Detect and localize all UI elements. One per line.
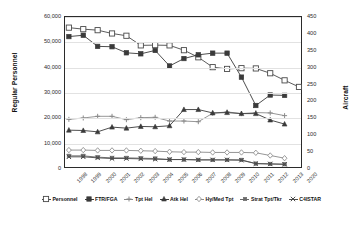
y-tick-label-left: 60,000 [31, 13, 61, 19]
x-tick-label: 2008 [219, 171, 232, 184]
y-tick-label-right: 450 [307, 13, 331, 19]
legend-label: Hy/Med Tpt [205, 196, 233, 202]
legend-symbol-icon [289, 195, 297, 203]
legend-label: Atk Hel [170, 196, 188, 202]
gridline [65, 93, 301, 94]
y-tick-label-left: 10,000 [31, 140, 61, 146]
legend-label: C4ISTAR [299, 196, 321, 202]
legend-marker [240, 199, 249, 200]
y-axis-title-right: Aircraft [339, 62, 351, 132]
y-tick-label-right: 350 [307, 47, 331, 53]
legend-marker [195, 199, 204, 200]
x-tick-label: 2010 [248, 171, 261, 184]
x-tick-label: 2007 [205, 171, 218, 184]
legend-symbol-icon [195, 195, 203, 203]
gridline [65, 68, 301, 69]
legend-marker [289, 199, 298, 200]
legend-marker [42, 199, 51, 200]
gridline [65, 42, 301, 43]
x-tick-label: 2011 [262, 171, 275, 184]
y-tick-label-left: 40,000 [31, 64, 61, 70]
y-tick-label-right: 50 [307, 148, 331, 154]
x-tick-label: 2012 [277, 171, 290, 184]
x-tick-label: 2009 [234, 171, 247, 184]
legend-item-c4istar[interactable]: C4ISTAR [289, 196, 321, 202]
legend-label: Tpt Hel [135, 196, 153, 202]
legend-label: Strat Tpt/Tkr [251, 196, 282, 202]
legend-label: Personnel [52, 196, 77, 202]
chart-legend: PersonnelFTR/FGATpt HelAtk HelHy/Med Tpt… [0, 196, 363, 202]
legend-item-ftr-fga[interactable]: FTR/FGA [85, 196, 118, 202]
gridline [65, 118, 301, 119]
gridline [65, 144, 301, 145]
y-tick-label-right: 0 [307, 165, 331, 171]
x-tick-label: 2020 [306, 171, 319, 184]
x-tick-label: 2004 [162, 171, 175, 184]
y-tick-label-right: 100 [307, 131, 331, 137]
y-tick-label-right: 250 [307, 81, 331, 87]
legend-item-hy-med-tpt[interactable]: Hy/Med Tpt [195, 196, 233, 202]
legend-symbol-icon [85, 195, 93, 203]
chart-container: Regular Personnel Aircraft 010,00020,000… [0, 0, 363, 227]
legend-marker [124, 199, 133, 200]
legend-symbol-icon [125, 195, 133, 203]
legend-item-atk-hel[interactable]: Atk Hel [160, 196, 188, 202]
x-tick-label: 2001 [119, 171, 132, 184]
legend-symbol-icon [241, 195, 249, 203]
x-tick-label: 2002 [133, 171, 146, 184]
legend-symbol-icon [160, 195, 168, 203]
x-tick-label: 2013 [291, 171, 304, 184]
series-line [69, 35, 285, 105]
legend-marker [160, 199, 169, 200]
x-tick-label: 2003 [147, 171, 160, 184]
y-tick-label-right: 400 [307, 30, 331, 36]
legend-symbol-icon [42, 195, 50, 203]
y-tick-label-right: 200 [307, 97, 331, 103]
series-line [69, 157, 285, 164]
y-tick-label-left: 30,000 [31, 89, 61, 95]
legend-item-strat-tpt-tkr[interactable]: Strat Tpt/Tkr [240, 196, 281, 202]
x-tick-label: 2000 [104, 171, 117, 184]
legend-item-tpt-hel[interactable]: Tpt Hel [124, 196, 152, 202]
x-tick-label: 1999 [90, 171, 103, 184]
legend-item-personnel[interactable]: Personnel [42, 196, 78, 202]
y-tick-label-left: 50,000 [31, 38, 61, 44]
gridline [65, 17, 301, 18]
x-tick-label: 2005 [176, 171, 189, 184]
y-tick-label-left: 20,000 [31, 114, 61, 120]
legend-label: FTR/FGA [95, 196, 117, 202]
legend-marker [85, 199, 94, 200]
y-axis-title-left: Regular Personnel [9, 30, 21, 135]
y-tick-label-left: 0 [31, 165, 61, 171]
y-tick-label-right: 300 [307, 64, 331, 70]
x-tick-label: 2006 [191, 171, 204, 184]
y-tick-label-right: 150 [307, 114, 331, 120]
x-tick-label: 1998 [75, 171, 88, 184]
plot-area [64, 16, 302, 168]
